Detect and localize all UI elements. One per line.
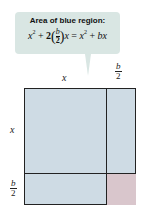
label-top-x: x (62, 72, 66, 83)
callout-box: Area of blue region: x2 + 2(b2)x = x2 + … (15, 12, 120, 54)
x-squared-region (24, 88, 106, 174)
area-formula: x2 + 2(b2)x = x2 + bx (15, 28, 120, 45)
corner-square-region (106, 174, 136, 205)
bottom-strip-region (24, 174, 106, 205)
callout-title: Area of blue region: (15, 16, 120, 25)
label-left-b-over-2: b2 (10, 179, 17, 198)
label-left-x: x (10, 124, 14, 135)
label-top-b-over-2: b2 (115, 62, 122, 81)
divider-vertical (106, 88, 107, 174)
callout-pointer (85, 54, 91, 76)
right-strip-region (106, 88, 136, 174)
